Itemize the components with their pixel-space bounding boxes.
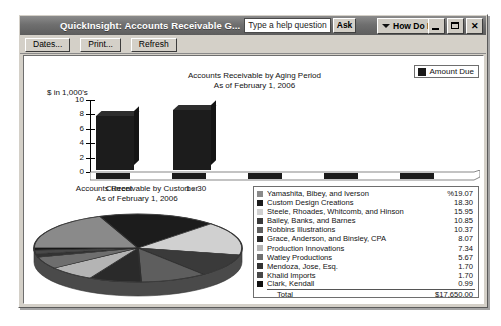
legend-customer-name: Robbins Illustrations [267,225,454,234]
y-axis-line [90,100,91,172]
legend-customer-name: Bailey, Banks, and Barnes [267,216,454,225]
pie-chart-title: Accounts Receivable by Customer As of Fe… [24,184,250,204]
legend-percent-value: 18.30 [454,198,475,207]
legend-customer-name: Watley Productions [267,253,458,262]
bar-1-30-side [211,100,216,165]
floor-svg [90,170,480,184]
legend-customer-name: Production Innovations [267,244,458,253]
window-title: QuickInsight: Accounts Receivable G... [20,20,240,31]
toolbar: Dates... Print... Refresh [20,36,486,54]
y-tickmark-6 [86,129,95,130]
total-spacer [257,292,263,298]
legend-customer-name: Clark, Kendall [267,279,458,289]
pie-slices [34,214,242,282]
help-question-input[interactable]: Type a help question [244,18,330,33]
legend-percent-value: 7.34 [458,244,475,253]
y-tick-6: 6 [64,124,84,133]
title-bar[interactable]: QuickInsight: Accounts Receivable G... T… [20,16,486,35]
y-axis-tick-labels: 10 8 6 4 2 0 [62,100,84,172]
legend-color-swatch-icon [257,236,263,242]
y-tick-2: 2 [64,153,84,162]
pie-svg [32,206,244,298]
y-tick-8: 8 [64,109,84,118]
bar-chart-title-line2: As of February 1, 2006 [24,81,484,91]
legend-percent-value: 15.95 [454,207,475,216]
ask-button[interactable]: Ask [333,18,357,33]
legend-row[interactable]: Yamashita, Bibey, and Iverson%19.07 [257,189,475,198]
legend-color-swatch-icon [257,281,263,287]
legend-color-swatch-icon [257,272,263,278]
legend-total-label: Total [267,290,435,299]
y-tick-0: 0 [64,167,84,176]
legend-percent-value: 5.67 [458,253,475,262]
minimize-icon [432,28,439,30]
y-tickmark-4 [86,143,95,144]
y-tick-4: 4 [64,138,84,147]
print-button[interactable]: Print... [80,38,121,52]
legend-total-row: Total $17,650.00 [257,290,475,299]
legend-percent-value: 8.07 [458,234,475,243]
amount-due-swatch-icon [418,68,426,76]
pie-graphic[interactable] [32,206,244,298]
legend-customer-name: Steele, Rhoades, Whitcomb, and Hinson [267,207,454,216]
legend-color-swatch-icon [257,218,263,224]
legend-percent-value: 0.99 [458,279,475,289]
legend-color-swatch-icon [257,200,263,206]
chevron-down-icon [382,24,390,28]
legend-color-swatch-icon [257,245,263,251]
legend-percent-value: %19.07 [447,189,475,198]
y-tickmark-8 [86,114,95,115]
legend-percent-value: 10.85 [454,216,475,225]
legend-row[interactable]: Mendoza, Jose, Esq.1.70 [257,262,475,271]
bar-chart-legend: Amount Due [414,65,479,78]
refresh-button[interactable]: Refresh [131,38,177,52]
legend-row[interactable]: Custom Design Creations18.30 [257,198,475,207]
bar-1-30-front [173,110,211,170]
legend-color-swatch-icon [257,209,263,215]
bar-current-front [96,116,134,170]
bar-chart-title-line1: Accounts Receivable by Aging Period [188,71,321,80]
minimize-button[interactable] [428,18,445,34]
legend-row[interactable]: Production Innovations7.34 [257,244,475,253]
legend-color-swatch-icon [257,191,263,197]
legend-percent-value: 1.70 [458,262,475,271]
quickinsight-window: QuickInsight: Accounts Receivable G... T… [18,14,488,308]
legend-row[interactable]: Watley Productions5.67 [257,253,475,262]
y-tickmark-10 [86,100,95,101]
customer-pie-chart: Accounts Receivable by Customer As of Fe… [24,184,250,304]
legend-percent-value: 10.37 [454,225,475,234]
maximize-icon [451,22,459,29]
legend-color-swatch-icon [257,254,263,260]
legend-total-value: $17,650.00 [435,290,475,299]
legend-row[interactable]: Steele, Rhoades, Whitcomb, and Hinson15.… [257,207,475,216]
legend-row[interactable]: Robbins Illustrations10.37 [257,225,475,234]
window-controls: ✕ [428,18,483,34]
customer-legend-table[interactable]: Yamashita, Bibey, and Iverson%19.07Custo… [253,186,479,298]
y-tick-10: 10 [64,95,84,104]
close-icon: ✕ [471,22,479,31]
aging-period-bar-chart: Accounts Receivable by Aging Period As o… [24,56,484,182]
chart-floor-3d [90,170,474,182]
legend-row[interactable]: Bailey, Banks, and Barnes10.85 [257,216,475,225]
legend-customer-name: Mendoza, Jose, Esq. [267,262,458,271]
legend-color-swatch-icon [257,227,263,233]
screenshot-root: QuickInsight: Accounts Receivable G... T… [0,0,501,326]
dates-button[interactable]: Dates... [25,38,70,52]
bar-current-side [134,106,139,165]
report-client-area: Accounts Receivable by Aging Period As o… [23,55,484,304]
amount-due-label: Amount Due [430,67,474,76]
legend-customer-name: Grace, Anderson, and Binsley, CPA [267,234,458,243]
legend-rows: Yamashita, Bibey, and Iverson%19.07Custo… [257,189,475,289]
bar-current[interactable] [96,111,134,170]
pie-chart-title-line1: Accounts Receivable by Customer [76,184,198,193]
close-button[interactable]: ✕ [466,18,483,34]
pie-chart-title-line2: As of February 1, 2006 [96,194,177,203]
legend-row[interactable]: Grace, Anderson, and Binsley, CPA8.07 [257,234,475,243]
legend-customer-name: Yamashita, Bibey, and Iverson [267,189,447,198]
y-tickmark-2 [86,158,95,159]
bar-1-30[interactable] [173,105,211,170]
legend-row[interactable]: Clark, Kendall0.99 [257,280,475,289]
maximize-button[interactable] [447,18,464,34]
legend-color-swatch-icon [257,263,263,269]
legend-customer-name: Custom Design Creations [267,198,454,207]
